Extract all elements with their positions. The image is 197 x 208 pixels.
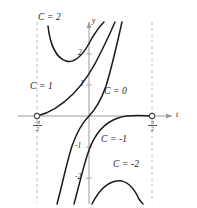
plot-canvas bbox=[0, 0, 197, 208]
y-tick-label-2: 2 bbox=[78, 48, 82, 57]
x-tick-label-pi-over-2: π 2 bbox=[145, 119, 160, 132]
x-axis-label: t bbox=[176, 110, 178, 119]
plot-figure: C = 2 C = 1 C = 0 C = -1 C = -2 t y 2 1 … bbox=[0, 0, 197, 208]
x-tick-right-denominator: 2 bbox=[145, 126, 160, 132]
open-point-right bbox=[149, 113, 154, 118]
x-tick-left-denominator: 2 bbox=[29, 126, 46, 132]
x-axis-arrow bbox=[166, 114, 172, 119]
x-tick-label-minus-pi-over-2: -π 2 bbox=[29, 119, 46, 132]
curve-c2 bbox=[48, 22, 104, 61]
curve-cm2 bbox=[92, 181, 143, 204]
x-tick-left-numerator: -π bbox=[29, 119, 46, 125]
curve-label-cm2: C = -2 bbox=[113, 159, 139, 169]
y-axis-arrow bbox=[87, 22, 92, 28]
open-point-left bbox=[34, 113, 39, 118]
curve-label-c2: C = 2 bbox=[38, 12, 61, 22]
curve-label-c0: C = 0 bbox=[104, 86, 127, 96]
curve-label-c1: C = 1 bbox=[30, 81, 53, 91]
y-axis-label: y bbox=[92, 16, 95, 25]
y-tick-label-1: 1 bbox=[80, 79, 84, 88]
y-tick-label-minus-1: -1 bbox=[75, 141, 81, 150]
y-tick-label-minus-2: -2 bbox=[75, 172, 81, 181]
curve-label-cm1: C = -1 bbox=[101, 134, 127, 144]
curve-c1 bbox=[37, 22, 115, 116]
